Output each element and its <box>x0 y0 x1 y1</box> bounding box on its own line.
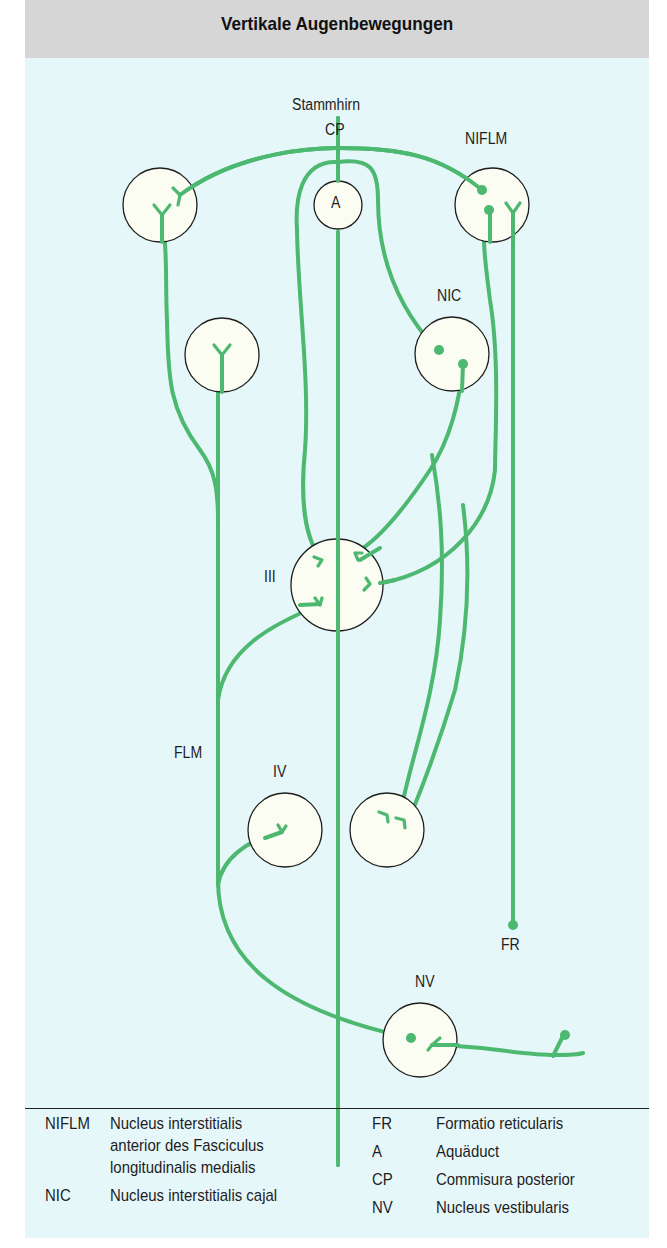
legend-abbr-fr: FR <box>372 1114 392 1134</box>
label-nic: NIC <box>437 287 461 305</box>
label-stammhirn: Stammhirn <box>292 96 360 114</box>
label-cp: CP <box>325 121 345 139</box>
label-flm: FLM <box>174 744 202 762</box>
nv-nucleus <box>383 1003 457 1077</box>
legend-text-niflm-2: anterior des Fasciculus <box>110 1136 264 1156</box>
pathway-diagram <box>0 0 667 1248</box>
legend-abbr-nic: NIC <box>45 1186 71 1206</box>
legend-text-nv: Nucleus vestibularis <box>436 1198 569 1218</box>
legend-divider <box>25 1108 649 1109</box>
nic-descending <box>355 364 463 553</box>
label-iv: IV <box>273 763 286 781</box>
terminal-dot-icon <box>508 920 518 930</box>
legend-text-cp: Commisura posterior <box>436 1170 575 1190</box>
label-a: A <box>331 194 340 212</box>
legend-abbr-niflm: NIFLM <box>45 1114 90 1134</box>
legend-abbr-a: A <box>372 1142 382 1162</box>
terminal-dot-icon <box>406 1033 416 1043</box>
terminal-dot-icon <box>434 345 444 355</box>
label-fr: FR <box>501 936 520 954</box>
iii-to-lower-branch-2 <box>412 505 468 812</box>
legend-text-fr: Formatio reticularis <box>436 1114 563 1134</box>
lower-right-nucleus <box>350 793 424 867</box>
legend-abbr-nv: NV <box>372 1198 393 1218</box>
label-niflm: NIFLM <box>465 130 507 148</box>
legend-text-niflm-1: Nucleus interstitialis <box>110 1114 242 1134</box>
terminal-dot-icon <box>484 205 494 215</box>
terminal-dot-icon <box>458 359 468 369</box>
label-nv: NV <box>415 973 435 991</box>
terminal-dot-icon <box>477 185 487 195</box>
legend-abbr-cp: CP <box>372 1170 393 1190</box>
label-iii: III <box>264 568 276 586</box>
legend-text-a: Aquäduct <box>436 1142 499 1162</box>
terminal-dot-icon <box>560 1030 570 1040</box>
nic-nucleus <box>415 317 489 391</box>
iii-to-lower-branch-1 <box>400 455 442 815</box>
legend-text-niflm-3: longitudinalis medialis <box>110 1158 256 1178</box>
flm-to-iii-branch <box>218 605 320 700</box>
legend-text-nic: Nucleus interstitialis cajal <box>110 1186 277 1206</box>
